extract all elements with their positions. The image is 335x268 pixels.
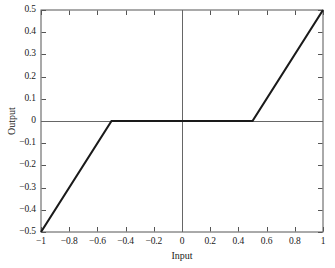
x-tick-label: −0.4 [117, 237, 134, 247]
y-tick-label: −0.5 [0, 227, 36, 237]
plot-canvas [0, 0, 335, 268]
x-tick-label: −0.6 [89, 237, 106, 247]
y-tick-label: 0.2 [0, 72, 36, 82]
y-tick-label: −0.2 [0, 161, 36, 171]
x-axis-title: Input [171, 251, 192, 261]
y-tick-label: −0.4 [0, 205, 36, 215]
chart-figure: −0.5−0.4−0.3−0.2−0.100.10.20.30.40.5 −1−… [0, 0, 335, 268]
y-tick-label: 0.3 [0, 50, 36, 60]
y-tick-label: 0.1 [0, 94, 36, 104]
x-tick-label: 1 [321, 237, 326, 247]
x-tick-label: 0.4 [233, 237, 245, 247]
y-axis-title: Output [7, 107, 17, 135]
y-tick-label: −0.1 [0, 138, 36, 148]
x-tick-label: 0.6 [261, 237, 273, 247]
x-tick-label: 0 [180, 237, 185, 247]
x-tick-label: −0.8 [61, 237, 78, 247]
x-tick-label: −0.2 [145, 237, 162, 247]
x-tick-label: 0.8 [289, 237, 301, 247]
y-tick-label: 0.5 [0, 5, 36, 15]
y-tick-label: 0.4 [0, 27, 36, 37]
x-tick-label: 0.2 [204, 237, 216, 247]
x-tick-label: −1 [36, 237, 46, 247]
y-tick-label: −0.3 [0, 183, 36, 193]
